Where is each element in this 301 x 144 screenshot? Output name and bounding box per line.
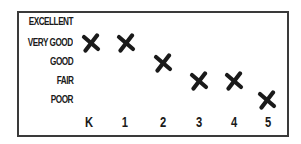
x-mark-icon [153,53,173,73]
x-mark-icon [189,71,209,91]
x-label-k: K [83,114,96,130]
y-label-excellent: EXCELLENT [29,16,73,28]
x-mark-icon [224,71,244,91]
x-label-2: 2 [157,114,170,130]
x-mark-icon [116,33,136,53]
x-label-1: 1 [119,114,132,130]
x-label-5: 5 [262,114,275,130]
y-label-very-good: VERY GOOD [28,37,73,49]
y-label-fair: FAIR [56,75,73,87]
x-label-3: 3 [193,114,206,130]
x-mark-icon [81,33,101,53]
y-label-poor: POOR [51,94,73,106]
y-label-good: GOOD [50,56,73,68]
x-label-4: 4 [228,114,241,130]
x-mark-icon [257,90,277,110]
chart-frame [17,11,289,137]
